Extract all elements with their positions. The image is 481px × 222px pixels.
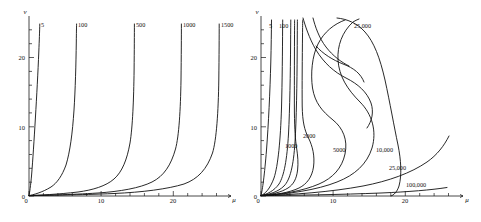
left-label-1500: 1500 (221, 21, 233, 28)
right-curve-100 (261, 20, 283, 196)
left-y-axis-label: v (23, 8, 27, 16)
right-label-100: 100 (279, 22, 288, 29)
right-curve-pocket-arc (316, 46, 364, 82)
right-label-1000: 1000 (285, 142, 297, 149)
left-curve-1500 (29, 24, 219, 196)
right-label-25000-a: 25,000 (354, 22, 371, 29)
left-ytick-0: 0 (22, 193, 25, 200)
right-plot-svg: 0 10 20 0 10 20 v μ (241, 0, 481, 222)
left-curve-500 (29, 24, 134, 196)
left-curve-5 (29, 24, 40, 196)
left-label-1000: 1000 (183, 21, 195, 28)
right-ytick-0: 0 (254, 193, 257, 200)
right-y-ticks (261, 30, 266, 196)
figure-contour-plots: 0 10 20 0 10 20 v μ 5 100 500 1000 (0, 0, 481, 222)
right-label-10000: 10,000 (376, 146, 393, 153)
right-label-5000: 5000 (333, 146, 345, 153)
left-xtick-20: 20 (170, 197, 177, 204)
left-label-5: 5 (41, 21, 44, 28)
right-y-axis-label: v (255, 8, 259, 16)
right-curve-600 (261, 20, 297, 196)
left-label-500: 500 (136, 21, 145, 28)
right-curve-1000 (261, 20, 298, 196)
left-ytick-20: 20 (19, 54, 26, 61)
right-label-100000: 100,000 (406, 181, 426, 188)
right-curve-5 (261, 20, 272, 196)
left-plot-svg: 0 10 20 0 10 20 v μ 5 100 500 1000 (0, 0, 240, 222)
right-curves (261, 18, 449, 196)
left-curve-labels: 5 100 500 1000 1500 (41, 21, 233, 28)
plot-panel-left: 0 10 20 0 10 20 v μ 5 100 500 1000 (0, 0, 240, 222)
left-label-100: 100 (78, 21, 87, 28)
right-xtick-10: 10 (330, 197, 337, 204)
left-xtick-10: 10 (98, 197, 105, 204)
right-label-25000-b: 25,000 (389, 164, 406, 171)
left-curves (29, 24, 219, 196)
right-curve-5000 (261, 20, 346, 196)
right-x-axis-label: μ (465, 196, 469, 204)
plot-panel-right: 0 10 20 0 10 20 v μ (241, 0, 481, 222)
left-curve-1000 (29, 24, 181, 196)
right-ytick-20: 20 (251, 54, 258, 61)
right-xtick-20: 20 (402, 197, 409, 204)
left-x-axis-label: μ (232, 196, 236, 204)
right-label-2000: 2000 (303, 132, 315, 139)
right-label-5: 5 (269, 22, 272, 29)
right-curve-pocket-outer (303, 18, 372, 128)
left-ytick-10: 10 (19, 124, 26, 131)
right-ytick-10: 10 (251, 124, 258, 131)
right-curve-pocket-inner (313, 18, 349, 66)
